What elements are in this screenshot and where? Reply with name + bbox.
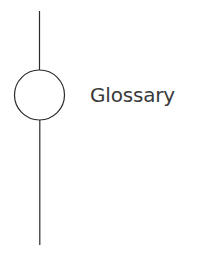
glossary-node-label[interactable]: Glossary (90, 83, 175, 107)
timeline-node-circle-icon[interactable] (15, 70, 65, 120)
timeline-graphic (0, 0, 200, 253)
